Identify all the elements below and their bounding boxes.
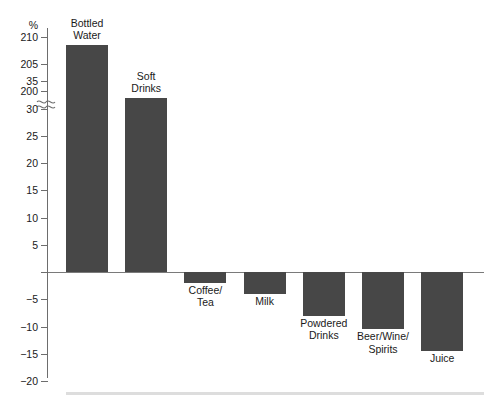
y-axis-tick-mark bbox=[41, 81, 48, 82]
scan-artifact-bottom-band bbox=[66, 392, 484, 395]
y-axis-tick-mark bbox=[41, 245, 48, 246]
y-axis-tick-label: 5 bbox=[4, 240, 38, 251]
y-axis-tick-mark bbox=[41, 354, 48, 355]
bar-coffee-tea bbox=[184, 272, 226, 283]
y-axis-tick-mark bbox=[41, 136, 48, 137]
bar-milk bbox=[244, 272, 286, 294]
y-axis-tick-label: 20 bbox=[4, 158, 38, 169]
y-axis-tick-mark bbox=[41, 190, 48, 191]
y-axis-tick-label: 15 bbox=[4, 185, 38, 196]
y-axis-tick-mark bbox=[41, 299, 48, 300]
y-axis-tick-label: −20 bbox=[4, 376, 38, 387]
y-axis-tick-mark bbox=[41, 64, 48, 65]
bar-juice bbox=[421, 272, 463, 351]
y-axis-tick-label: −5 bbox=[4, 294, 38, 305]
y-axis-tick-label: 200 bbox=[4, 86, 38, 97]
y-axis-tick-label: 25 bbox=[4, 131, 38, 142]
bar-label-bottled-water: Bottled Water bbox=[42, 17, 132, 42]
bar-chart: % 2102052003530252015105−5−10−15−20 Bott… bbox=[0, 0, 490, 397]
scan-artifact-top-text bbox=[150, 0, 330, 9]
bar-powdered-drinks bbox=[303, 272, 345, 316]
y-axis-tick-mark bbox=[41, 109, 48, 110]
bar-label-soft-drinks: Soft Drinks bbox=[101, 70, 191, 95]
y-axis-tick-label: −15 bbox=[4, 349, 38, 360]
y-axis-tick-mark bbox=[41, 163, 48, 164]
y-axis-tick-mark bbox=[41, 218, 48, 219]
y-axis-tick-label: 30 bbox=[4, 104, 38, 115]
bar-beer-wine-spirits bbox=[362, 272, 404, 329]
y-axis-tick-label: 35 bbox=[4, 76, 38, 87]
bar-label-juice: Juice bbox=[397, 352, 487, 365]
y-axis-tick-label: −10 bbox=[4, 322, 38, 333]
y-axis-tick-label: 210 bbox=[4, 32, 38, 43]
y-axis-tick-mark bbox=[41, 381, 48, 382]
y-axis-tick-mark bbox=[41, 272, 48, 273]
y-axis-tick-label: 10 bbox=[4, 213, 38, 224]
axis-break-squiggle-icon bbox=[36, 96, 58, 112]
bar-soft-drinks bbox=[125, 98, 167, 272]
y-axis-tick-mark bbox=[41, 91, 48, 92]
y-axis-tick-mark bbox=[41, 327, 48, 328]
y-axis-tick-label: 205 bbox=[4, 59, 38, 70]
y-axis-unit-label: % bbox=[0, 20, 38, 31]
bar-label-milk: Milk bbox=[220, 295, 310, 308]
